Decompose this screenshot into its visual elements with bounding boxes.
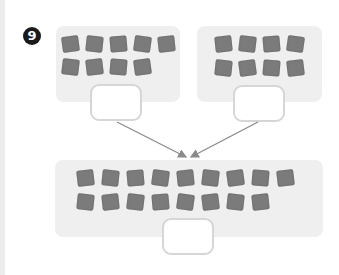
tile	[276, 169, 295, 187]
tile	[101, 193, 120, 211]
tile	[126, 193, 145, 211]
tile	[226, 193, 245, 211]
tile	[76, 169, 95, 187]
tile	[226, 169, 245, 187]
tile	[176, 193, 195, 211]
tile	[76, 193, 95, 211]
tile	[201, 169, 220, 187]
total-answer-box[interactable]	[162, 218, 214, 255]
tile	[151, 169, 170, 187]
right-arrow	[191, 122, 258, 157]
tile	[201, 193, 220, 211]
left-arrow	[117, 122, 186, 157]
tile	[101, 169, 120, 187]
tile	[151, 193, 169, 210]
tile	[126, 169, 144, 186]
tile	[251, 169, 269, 186]
tile	[251, 193, 270, 211]
tile	[176, 169, 195, 187]
